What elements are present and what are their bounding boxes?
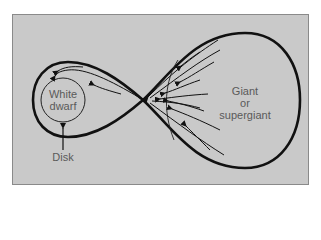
giant-label-line2: or <box>212 97 278 109</box>
white-dwarf-label-line1: White <box>44 88 82 100</box>
disk-label: Disk <box>44 151 82 163</box>
giant-label-line1: Giant <box>212 85 278 97</box>
giant-label: Giant or supergiant <box>212 85 278 121</box>
giant-label-line3: supergiant <box>212 109 278 121</box>
white-dwarf-label-line2: dwarf <box>44 100 82 112</box>
white-dwarf-label: White dwarf <box>44 88 82 112</box>
disk-label-text: Disk <box>52 151 73 163</box>
